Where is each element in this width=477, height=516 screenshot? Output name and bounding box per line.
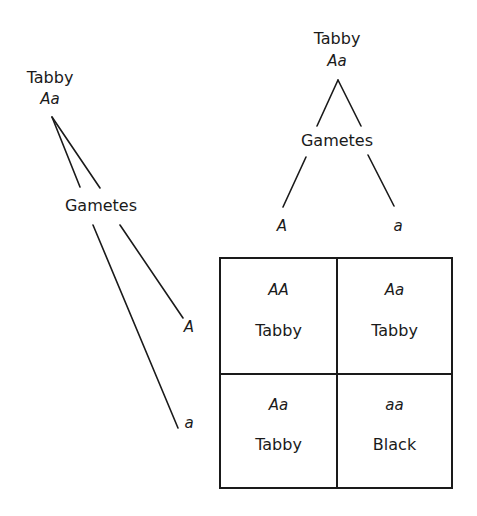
cell-phenotype: Tabby bbox=[371, 320, 418, 339]
left-parent-genotype: Aa bbox=[40, 90, 59, 108]
top-gamete-allele-a: a bbox=[393, 217, 402, 235]
left-gamete-allele-a: a bbox=[184, 414, 193, 432]
cell-phenotype: Black bbox=[373, 435, 416, 454]
cell-genotype: Aa bbox=[269, 396, 288, 414]
left-parent-phenotype: Tabby bbox=[27, 68, 74, 87]
cell-genotype: AA bbox=[268, 281, 289, 299]
cell-genotype: aa bbox=[385, 396, 403, 414]
top-parent-genotype: Aa bbox=[327, 52, 346, 70]
punnett-cell-AA: AA Tabby bbox=[221, 259, 336, 373]
left-gamete-allele-A: A bbox=[184, 318, 194, 336]
punnett-square: AA Tabby Aa Tabby Aa Tabby aa Black bbox=[219, 257, 453, 489]
top-parent-phenotype: Tabby bbox=[314, 29, 361, 48]
cell-genotype: Aa bbox=[385, 281, 404, 299]
cell-phenotype: Tabby bbox=[255, 435, 302, 454]
top-gamete-allele-A: A bbox=[277, 217, 287, 235]
left-gametes-label: Gametes bbox=[65, 196, 137, 215]
punnett-cell-Aa-top: Aa Tabby bbox=[336, 259, 451, 373]
punnett-cell-aa: aa Black bbox=[336, 373, 451, 487]
punnett-cell-Aa-bottom: Aa Tabby bbox=[221, 373, 336, 487]
top-gametes-label: Gametes bbox=[301, 131, 373, 150]
cell-phenotype: Tabby bbox=[255, 320, 302, 339]
